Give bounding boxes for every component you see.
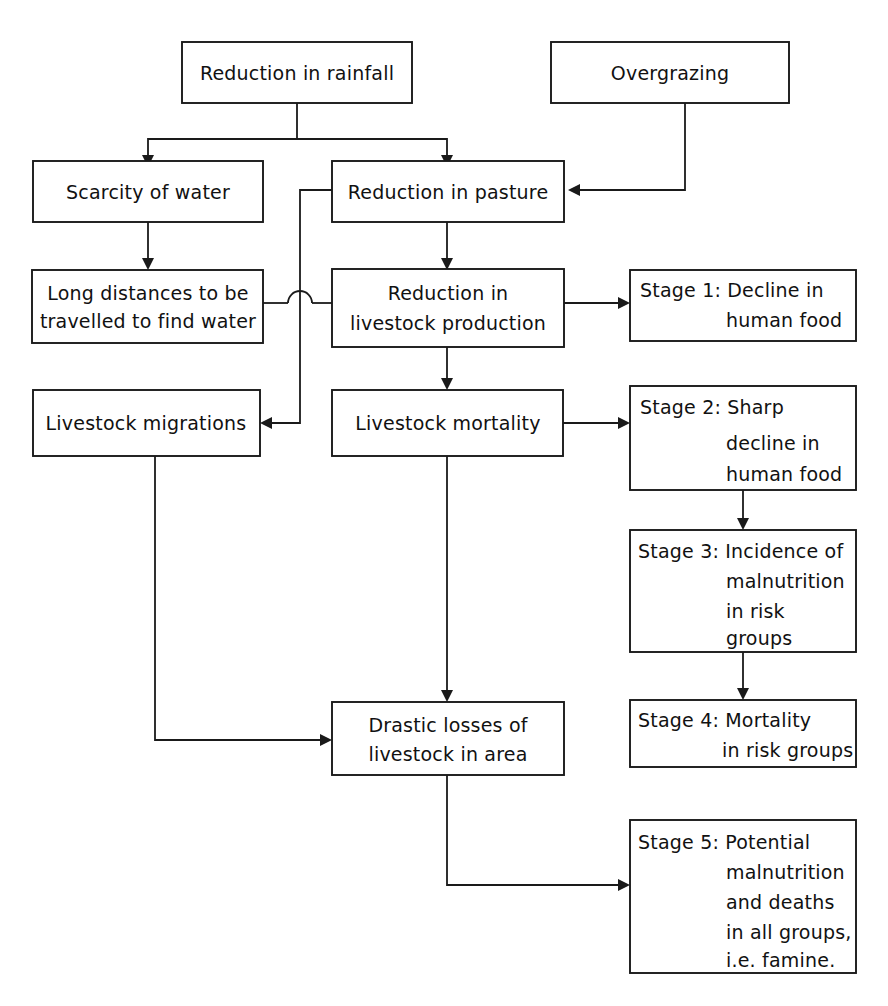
node-label-line-2: livestock in area <box>368 743 527 765</box>
edge-overgrazing-to-pasture <box>568 103 685 196</box>
node-label-line-2: in risk groups <box>722 739 853 761</box>
node-label-line-1: Stage 5: Potential <box>638 831 810 853</box>
edge-pasture-to-livestock-production <box>441 222 453 270</box>
node-long-distances-to-find-water[interactable]: Long distances to be travelled to find w… <box>32 270 263 343</box>
node-label-line-2: livestock production <box>350 312 546 334</box>
node-label-line-2: malnutrition <box>726 570 845 592</box>
edge-pasture-to-migrations <box>260 190 332 429</box>
node-label-line-1: Stage 1: Decline in <box>640 279 824 301</box>
arrowhead-icon <box>618 297 630 309</box>
node-stage-3-incidence-of-malnutrition[interactable]: Stage 3: Incidence of malnutrition in ri… <box>630 530 856 652</box>
arrowhead-icon <box>618 417 630 429</box>
edge-mortality-to-drastic-losses <box>441 456 453 702</box>
node-label-line-1: Reduction in <box>388 282 509 304</box>
arrowhead-icon <box>441 690 453 702</box>
node-label-line-1: Stage 2: Sharp <box>640 396 784 418</box>
node-label: Reduction in rainfall <box>200 62 394 84</box>
arrowhead-icon <box>737 518 749 530</box>
node-label-line-2: malnutrition <box>726 861 845 883</box>
node-label-line-3: human food <box>726 463 842 485</box>
arrowhead-icon <box>737 688 749 700</box>
node-scarcity-of-water[interactable]: Scarcity of water <box>33 161 263 222</box>
node-drastic-losses-of-livestock[interactable]: Drastic losses of livestock in area <box>332 702 564 775</box>
node-livestock-mortality[interactable]: Livestock mortality <box>332 390 563 456</box>
node-livestock-migrations[interactable]: Livestock migrations <box>33 390 260 456</box>
node-label-line-3: and deaths <box>726 891 835 913</box>
node-label-line-3: in risk <box>726 600 785 622</box>
edge-migrations-to-drastic-losses <box>155 456 332 746</box>
node-reduction-in-rainfall[interactable]: Reduction in rainfall <box>182 42 412 103</box>
node-label-line-4: in all groups, <box>726 921 852 943</box>
edge-stage2-to-stage3 <box>737 490 749 530</box>
node-stage-4-mortality-in-risk-groups[interactable]: Stage 4: Mortality in risk groups <box>630 700 856 767</box>
node-label: Overgrazing <box>611 62 729 84</box>
node-label: Scarcity of water <box>66 181 230 203</box>
node-stage-2-sharp-decline-in-human-food[interactable]: Stage 2: Sharp decline in human food <box>630 386 856 490</box>
node-label-line-5: i.e. famine. <box>726 949 835 971</box>
edge-scarcity-to-long-distances <box>142 222 154 270</box>
edge-livestock-production-to-stage1 <box>563 297 630 309</box>
edge-livestock-production-to-mortality <box>441 347 453 390</box>
arrowhead-icon <box>260 417 272 429</box>
node-label: Reduction in pasture <box>348 181 549 203</box>
node-reduction-in-livestock-production[interactable]: Reduction in livestock production <box>332 269 564 347</box>
node-label-line-2: decline in <box>726 432 820 454</box>
node-label-line-1: Stage 3: Incidence of <box>638 540 844 562</box>
arrowhead-icon <box>568 184 580 196</box>
node-stage-1-decline-in-human-food[interactable]: Stage 1: Decline in human food <box>630 270 856 341</box>
arrowhead-icon <box>320 734 332 746</box>
edge-rainfall-to-scarcity-and-pasture <box>142 103 453 167</box>
edge-mortality-to-stage2 <box>563 417 630 429</box>
node-label: Livestock mortality <box>355 412 540 434</box>
node-reduction-in-pasture[interactable]: Reduction in pasture <box>332 161 564 222</box>
node-label-line-1: Drastic losses of <box>368 714 528 736</box>
node-label-line-2: travelled to find water <box>40 310 256 332</box>
node-label-line-2: human food <box>726 309 842 331</box>
edge-stage3-to-stage4 <box>737 652 749 700</box>
node-label-line-4: groups <box>726 627 792 649</box>
node-label-line-1: Stage 4: Mortality <box>638 709 811 731</box>
arrowhead-icon <box>441 378 453 390</box>
node-label: Livestock migrations <box>46 412 247 434</box>
flowchart-canvas: Reduction in rainfall Overgrazing Scarci… <box>0 0 888 1006</box>
arrowhead-icon <box>142 258 154 270</box>
node-overgrazing[interactable]: Overgrazing <box>551 42 789 103</box>
arrowhead-icon <box>618 879 630 891</box>
node-label-line-1: Long distances to be <box>47 282 248 304</box>
edge-drastic-losses-to-stage5 <box>447 760 630 891</box>
node-stage-5-potential-malnutrition-famine[interactable]: Stage 5: Potential malnutrition and deat… <box>630 820 856 973</box>
